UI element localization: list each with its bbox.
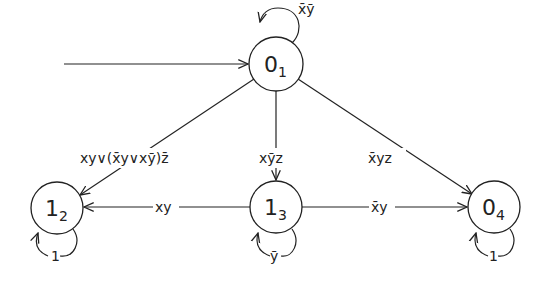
state-node-s1: 01 <box>249 37 303 91</box>
edge-label-s4-s4: 1 <box>489 248 498 264</box>
edge-s1-s2 <box>80 79 254 195</box>
edge-label-s3-s2: xy <box>155 199 172 215</box>
node-label: 0 <box>264 52 278 77</box>
node-label: 1 <box>264 195 278 220</box>
edge-label-s3-s4: x̄y <box>371 199 388 215</box>
state-node-s3: 13 <box>250 181 302 233</box>
state-node-s4: 04 <box>468 181 520 233</box>
edge-label-s3-s3: ȳ <box>270 248 278 264</box>
edge-label-s1-s4: x̄yz <box>368 150 392 166</box>
node-label: 1 <box>45 196 59 221</box>
edge-s1-s4 <box>298 79 472 194</box>
edge-label-s1-s3: xȳz <box>259 150 283 166</box>
edge-label-s1-s2: xy∨(x̄y∨xȳ)z̄ <box>80 150 168 166</box>
node-label: 0 <box>482 195 496 220</box>
edge-label-s1-s1: x̄ȳ <box>298 1 315 17</box>
state-diagram: x̄ȳ xy∨(x̄y∨xȳ)z̄ xȳz x̄yz xy x̄y 1 ȳ 1 … <box>0 0 547 281</box>
state-node-s2: 12 <box>31 182 83 234</box>
edge-label-s2-s2: 1 <box>51 248 60 264</box>
